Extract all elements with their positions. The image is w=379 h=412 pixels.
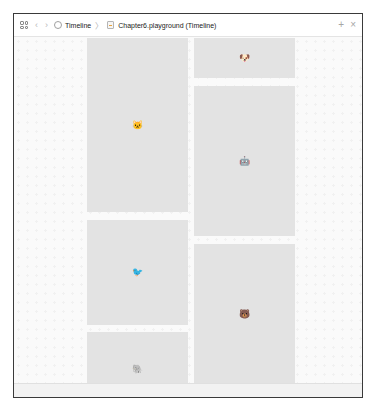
playground-window: ‹ › Timeline 〉 Chapter6.playground (Time…	[13, 13, 363, 398]
toolbar-actions: + ×	[332, 20, 356, 30]
bear-icon: 🐻	[239, 310, 250, 319]
dog-icon: 🐶	[239, 54, 250, 63]
breadcrumb-timeline[interactable]: Timeline	[65, 22, 91, 29]
panel-robot: 🤖	[194, 86, 295, 236]
panel-bear: 🐻	[194, 244, 295, 385]
add-icon[interactable]: +	[338, 20, 344, 30]
cat-icon: 🐱	[132, 121, 143, 130]
panel-bird: 🐦	[87, 220, 188, 325]
playground-file-icon	[107, 21, 114, 29]
bird-icon: 🐦	[132, 268, 143, 277]
panel-dog: 🐶	[194, 38, 295, 78]
close-icon[interactable]: ×	[350, 20, 356, 30]
forward-button[interactable]: ›	[45, 20, 48, 30]
panel-cat: 🐱	[87, 38, 188, 212]
panel-elephant: 🐘	[87, 332, 188, 385]
grid-icon[interactable]	[20, 21, 28, 29]
toolbar: ‹ › Timeline 〉 Chapter6.playground (Time…	[14, 14, 362, 37]
breadcrumb: Timeline 〉 Chapter6.playground (Timeline…	[54, 20, 216, 31]
timeline-icon	[54, 21, 62, 29]
robot-icon: 🤖	[239, 157, 250, 166]
breadcrumb-separator: 〉	[95, 20, 103, 31]
timeline-canvas: 🐱 🐦 🐘 🐶 🤖 🐻	[14, 37, 362, 385]
back-button[interactable]: ‹	[35, 20, 38, 30]
elephant-icon: 🐘	[132, 365, 143, 374]
status-bar	[14, 383, 362, 397]
breadcrumb-file[interactable]: Chapter6.playground (Timeline)	[118, 22, 216, 29]
